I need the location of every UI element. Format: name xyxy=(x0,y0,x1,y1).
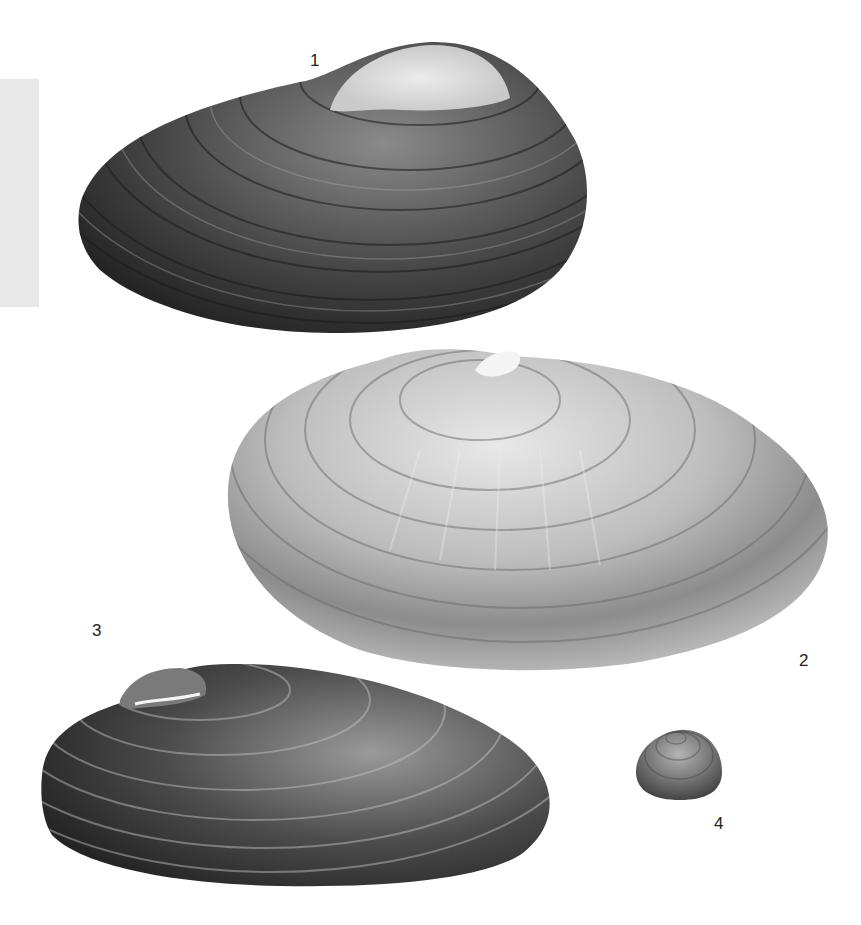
shell-figure-1 xyxy=(20,0,710,333)
figure-label-2: 2 xyxy=(799,652,808,669)
shell-illustrations xyxy=(0,0,861,925)
figure-label-3: 3 xyxy=(92,622,101,639)
figure-label-1: 1 xyxy=(310,52,319,69)
shell-figure-4 xyxy=(636,730,722,800)
shell-plate: 1 2 3 4 xyxy=(0,0,861,925)
figure-label-4: 4 xyxy=(714,815,723,832)
